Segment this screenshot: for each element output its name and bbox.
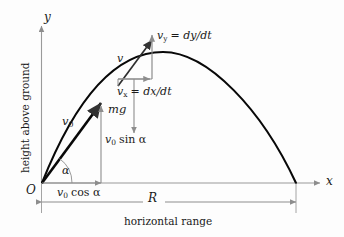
initial-velocity-vector (42, 103, 101, 183)
origin-label: O (26, 184, 36, 196)
resultant-velocity-label: v (117, 53, 123, 64)
projectile-motion-figure: y x O height above ground horizontal ran… (0, 0, 344, 237)
vy-label: vy= dy/dt (157, 30, 212, 43)
v0-sin-label: v0sin α (105, 134, 146, 147)
launch-angle-label: α (62, 165, 69, 176)
v0-sin-expression: sin α (119, 133, 146, 146)
v0-cos-expression: cos α (71, 186, 100, 199)
vx-label: vx= dx/dt (117, 86, 172, 99)
vx-expression: = dx/dt (130, 85, 171, 98)
x-axis-caption: horizontal range (124, 216, 212, 227)
v0-subscript: 0 (69, 120, 74, 129)
range-label: R (148, 192, 157, 204)
v0-cos-subscript: 0 (63, 191, 68, 200)
trajectory-curve (42, 52, 296, 183)
y-axis-caption: height above ground (20, 63, 31, 173)
y-axis-label: y (44, 11, 51, 23)
v0-sin-subscript: 0 (111, 138, 116, 147)
initial-velocity-label: v0 (62, 116, 73, 129)
v0-cos-label: v0cos α (57, 187, 100, 200)
vy-expression: = dy/dt (170, 29, 211, 42)
x-axis-label: x (326, 175, 333, 187)
weight-label: mg (108, 104, 126, 116)
vy-subscript: y (163, 34, 167, 43)
vx-subscript: x (123, 90, 127, 99)
